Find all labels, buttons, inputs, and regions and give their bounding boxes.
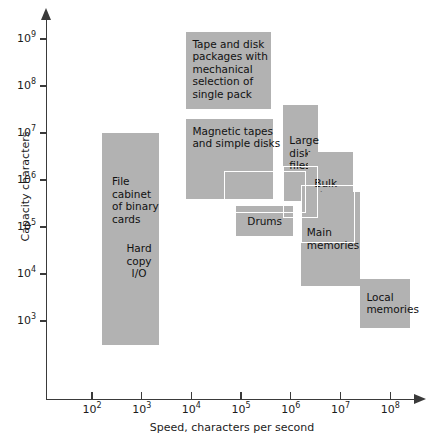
x-axis-line [46,399,418,400]
x-axis-arrow-icon [414,394,426,404]
x-axis-tick-label-2: 102 [72,404,112,415]
x-axis-tick-label-6: 106 [271,404,311,415]
y-axis-line [46,18,47,400]
region-local-memories [360,279,410,328]
x-axis-tick-label-8: 108 [370,404,410,415]
x-axis-tick-label-7: 107 [321,404,361,415]
chart-canvas: Capacity characters Speed, characters pe… [0,0,433,442]
y-axis-tick-label-5: 105 [2,221,36,232]
y-axis-tick-label-9: 109 [2,33,36,44]
y-axis-tick-label-6: 106 [2,174,36,185]
y-axis-tick-6 [40,179,47,180]
x-axis-tick-7 [340,392,341,400]
region-tape-and-disk-packages [186,32,270,110]
x-axis-title: Speed, characters per second [46,421,418,434]
y-axis-tick-9 [40,38,47,39]
x-axis-tick-3 [141,392,142,400]
y-axis-tick-8 [40,85,47,86]
x-axis-tick-6 [290,392,291,400]
y-axis-tick-label-4: 104 [2,268,36,279]
region-hard-copy-io [102,133,159,345]
x-axis-tick-label-3: 103 [122,404,162,415]
x-axis-tick-8 [390,392,391,400]
x-axis-tick-label-4: 104 [171,404,211,415]
y-axis-tick-3 [40,320,47,321]
y-axis-tick-label-7: 107 [2,127,36,138]
y-axis-tick-7 [40,132,47,133]
y-axis-tick-label-3: 103 [2,315,36,326]
y-axis-tick-label-8: 108 [2,80,36,91]
y-axis-tick-5 [40,226,47,227]
outline-bulk-stores-lower [301,185,356,244]
x-axis-tick-2 [91,392,92,400]
y-axis-arrow-icon [41,8,51,20]
y-axis-tick-4 [40,273,47,274]
x-axis-tick-4 [191,392,192,400]
x-axis-tick-label-5: 105 [221,404,261,415]
x-axis-tick-5 [240,392,241,400]
